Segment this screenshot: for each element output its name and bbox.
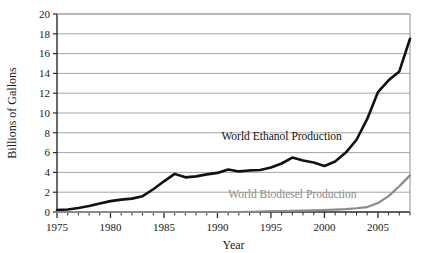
x-tick-label: 1995 xyxy=(260,221,283,233)
y-tick-label: 12 xyxy=(39,87,50,99)
x-tick-label: 1975 xyxy=(46,221,69,233)
chart-container: 02468101214161820 1975198019851990199520… xyxy=(0,0,427,253)
line-chart: 02468101214161820 1975198019851990199520… xyxy=(0,0,427,253)
series-label-world-biodiesel-production: World Biodiesel Production xyxy=(228,188,356,200)
y-tick-label: 20 xyxy=(39,8,51,20)
x-axis-title: Year xyxy=(222,238,244,252)
y-tick-label: 14 xyxy=(39,67,51,79)
y-tick-label: 4 xyxy=(45,166,51,178)
x-tick-label: 1985 xyxy=(153,221,176,233)
y-tick-label: 10 xyxy=(39,107,51,119)
y-tick-label: 2 xyxy=(45,186,51,198)
x-tick-label: 2000 xyxy=(313,221,336,233)
y-tick-label: 0 xyxy=(45,206,51,218)
y-tick-label: 18 xyxy=(39,28,51,40)
y-tick-label: 8 xyxy=(45,127,51,139)
x-tick-label: 1980 xyxy=(99,221,122,233)
y-axis-title: Billions of Gallons xyxy=(5,67,19,159)
x-tick-label: 2005 xyxy=(367,221,390,233)
x-tick-label: 1990 xyxy=(206,221,229,233)
y-tick-label: 6 xyxy=(45,146,51,158)
series-label-world-ethanol-production: World Ethanol Production xyxy=(221,130,342,142)
y-tick-label: 16 xyxy=(39,47,51,59)
